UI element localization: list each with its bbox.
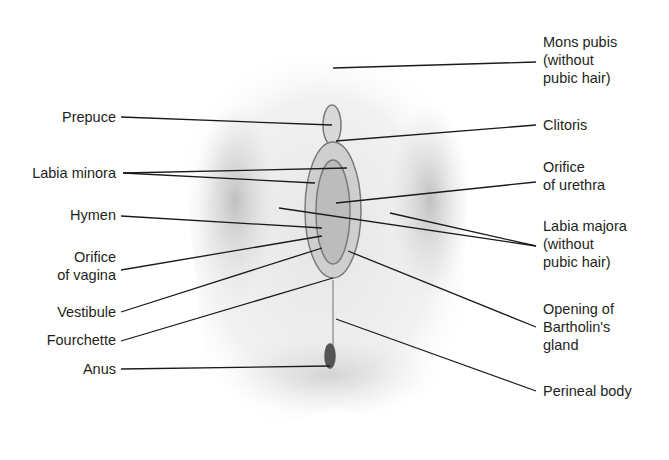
label-labia-majora: Labia majora(withoutpubic hair): [543, 217, 627, 271]
label-line: Clitoris: [543, 116, 587, 134]
label-line: of vagina: [57, 266, 116, 284]
label-opening-bartholin: Opening ofBartholin'sgland: [543, 300, 614, 354]
label-line: Orifice: [543, 158, 605, 176]
label-line: gland: [543, 336, 614, 354]
label-line: Prepuce: [62, 108, 116, 126]
label-labia-minora: Labia minora: [32, 164, 116, 182]
label-clitoris: Clitoris: [543, 116, 587, 134]
label-hymen: Hymen: [70, 206, 116, 224]
label-line: Fourchette: [47, 331, 116, 349]
anatomy-diagram: PrepuceLabia minoraHymenOrificeof vagina…: [0, 0, 669, 460]
label-prepuce: Prepuce: [62, 108, 116, 126]
label-line: Hymen: [70, 206, 116, 224]
label-line: Labia majora: [543, 217, 627, 235]
label-line: Anus: [83, 360, 116, 378]
label-line: Mons pubis: [543, 33, 617, 51]
label-line: Bartholin's: [543, 318, 614, 336]
label-perineal-body: Perineal body: [543, 382, 632, 400]
label-line: (without: [543, 51, 617, 69]
label-line: Labia minora: [32, 164, 116, 182]
label-line: Perineal body: [543, 382, 632, 400]
label-fourchette: Fourchette: [47, 331, 116, 349]
label-orifice-vagina: Orificeof vagina: [57, 248, 116, 284]
label-line: Vestibule: [57, 303, 116, 321]
label-line: pubic hair): [543, 69, 617, 87]
label-line: Orifice: [57, 248, 116, 266]
label-vestibule: Vestibule: [57, 303, 116, 321]
label-line: Opening of: [543, 300, 614, 318]
label-orifice-urethra: Orificeof urethra: [543, 158, 605, 194]
label-line: (without: [543, 235, 627, 253]
label-anus: Anus: [83, 360, 116, 378]
label-line: of urethra: [543, 176, 605, 194]
label-mons-pubis: Mons pubis(withoutpubic hair): [543, 33, 617, 87]
label-line: pubic hair): [543, 253, 627, 271]
